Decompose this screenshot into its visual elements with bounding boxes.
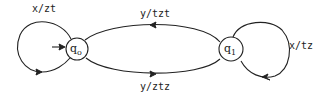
arrowhead-icon (59, 44, 65, 50)
transition-label-q1-q0: y/tzt (140, 9, 170, 19)
edge-q0-q1 (86, 58, 220, 73)
self-loop-q1-edge (233, 22, 289, 77)
transition-label-q0-loop: x/zt (32, 4, 56, 14)
transition-label-q0-q1: y/ztz (140, 82, 170, 92)
edge-q1-q0 (85, 25, 220, 43)
state-q0-label: qo (70, 43, 82, 57)
state-diagram: qo q1 x/zt y/tzt y/ztz x/tz (0, 0, 329, 100)
arrowhead-icon (36, 69, 42, 75)
state-q1-label: q1 (224, 43, 236, 57)
arrowhead-icon (150, 22, 156, 28)
transition-label-q1-loop: x/tz (289, 41, 313, 51)
arrowhead-icon (150, 71, 156, 77)
